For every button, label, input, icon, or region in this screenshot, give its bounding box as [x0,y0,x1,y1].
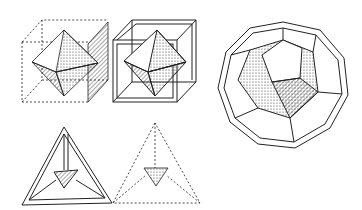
dashed-tetrahedron [113,123,200,203]
framed-tetrahedron [22,127,112,205]
octahedron-in-dashed-cube [22,20,108,102]
framed-dodecahedron [218,22,348,148]
engraving-illustration [0,0,362,210]
octahedron-in-framed-cube [113,20,196,102]
